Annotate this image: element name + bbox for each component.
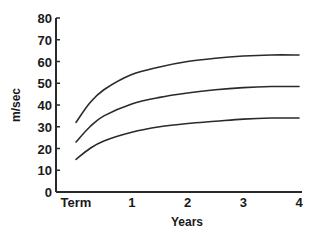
series-line-lower [76, 118, 299, 159]
x-tick-label: Term [61, 195, 92, 210]
x-tick-label: 3 [240, 195, 247, 210]
x-axis-title: Years [171, 215, 203, 229]
y-tick-label: 40 [38, 98, 52, 113]
y-tick-label: 30 [38, 120, 52, 135]
x-tick-label: 2 [184, 195, 191, 210]
y-tick-label: 10 [38, 163, 52, 178]
x-tick-label: 4 [295, 195, 303, 210]
y-axis: 01020304050607080 [38, 11, 60, 200]
y-tick-label: 70 [38, 33, 52, 48]
x-axis: Term1234 [56, 192, 303, 210]
series-lines [76, 55, 299, 159]
y-tick-label: 20 [38, 142, 52, 157]
line-chart: 01020304050607080 Term1234 m/sec Years [0, 0, 316, 237]
y-tick-label: 50 [38, 76, 52, 91]
y-tick-label: 0 [45, 185, 52, 200]
x-tick-label: 1 [128, 195, 135, 210]
series-line-middle [76, 86, 299, 142]
y-tick-label: 80 [38, 11, 52, 26]
y-tick-label: 60 [38, 55, 52, 70]
y-axis-title: m/sec [9, 88, 23, 122]
